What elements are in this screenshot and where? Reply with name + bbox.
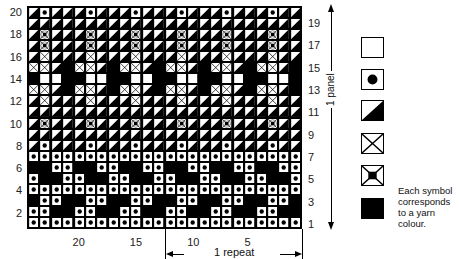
black-cell bbox=[165, 73, 176, 84]
dot-cell bbox=[51, 162, 62, 173]
diagonal-cell bbox=[142, 7, 153, 18]
dot-cell bbox=[278, 151, 289, 162]
diagonal-cell bbox=[233, 7, 244, 18]
dot-cell bbox=[130, 217, 141, 228]
dot-cell bbox=[51, 195, 62, 206]
diagonal-cell bbox=[28, 95, 39, 106]
row-label-7: 7 bbox=[308, 151, 314, 163]
black-cell bbox=[187, 206, 198, 217]
dot-cell bbox=[233, 151, 244, 162]
diagonal-cell bbox=[28, 106, 39, 117]
dot-cell bbox=[62, 162, 73, 173]
row-label-16: 16 bbox=[8, 51, 22, 63]
diagonal-cell bbox=[28, 18, 39, 29]
row-label-13: 13 bbox=[308, 84, 320, 96]
dot-cell bbox=[290, 173, 301, 184]
diagonal-cell bbox=[108, 18, 119, 29]
diagonal-cell bbox=[165, 7, 176, 18]
diagonal-cell bbox=[244, 95, 255, 106]
black-cell bbox=[176, 173, 187, 184]
diagonal-cell bbox=[165, 18, 176, 29]
dot-cell bbox=[165, 217, 176, 228]
diagonal-cell bbox=[119, 51, 130, 62]
black-cell bbox=[290, 84, 301, 95]
row-label-1: 1 bbox=[308, 218, 314, 230]
white-cell bbox=[130, 73, 141, 84]
dot-cell bbox=[221, 184, 232, 195]
dot-cell bbox=[108, 184, 119, 195]
black-cell bbox=[85, 173, 96, 184]
black-cell bbox=[244, 73, 255, 84]
dot-cell bbox=[85, 140, 96, 151]
black-cell bbox=[244, 195, 255, 206]
dot-cell bbox=[210, 184, 221, 195]
diagonal-cell bbox=[142, 29, 153, 40]
diagonal-cell bbox=[278, 18, 289, 29]
diagonal-cell bbox=[39, 18, 50, 29]
white-cell bbox=[278, 73, 289, 84]
dot-cell bbox=[119, 217, 130, 228]
diagonal-cell bbox=[28, 7, 39, 18]
dot-cell bbox=[233, 184, 244, 195]
dot-cell bbox=[210, 217, 221, 228]
diagonal-cell bbox=[96, 18, 107, 29]
cross-cell bbox=[221, 62, 232, 73]
dot-cell bbox=[256, 151, 267, 162]
diagonal-cell bbox=[233, 29, 244, 40]
dot-cell bbox=[85, 195, 96, 206]
cross-cell bbox=[39, 62, 50, 73]
diagonal-cell bbox=[130, 106, 141, 117]
black-cell bbox=[165, 195, 176, 206]
dot-cell bbox=[130, 151, 141, 162]
dot-cell bbox=[233, 162, 244, 173]
diagonal-cell bbox=[290, 51, 301, 62]
black-cell bbox=[153, 73, 164, 84]
black-cell bbox=[153, 195, 164, 206]
diagonal-cell bbox=[153, 95, 164, 106]
dot-cell bbox=[244, 162, 255, 173]
diagonal-cell bbox=[199, 29, 210, 40]
diagonal-cell bbox=[51, 106, 62, 117]
diagonal-cell bbox=[244, 18, 255, 29]
panel-arrow-down-icon bbox=[328, 222, 334, 230]
cross-cell bbox=[267, 95, 278, 106]
framed-cross-cell bbox=[176, 40, 187, 51]
diagonal-cell bbox=[85, 129, 96, 140]
diagonal-cell bbox=[278, 51, 289, 62]
row-label-6: 6 bbox=[8, 162, 22, 174]
knitting-chart-grid bbox=[27, 6, 302, 229]
dot-cell bbox=[187, 151, 198, 162]
black-cell bbox=[256, 195, 267, 206]
cross-cell bbox=[267, 51, 278, 62]
diagonal-cell bbox=[165, 118, 176, 129]
black-cell bbox=[290, 73, 301, 84]
cross-cell bbox=[176, 62, 187, 73]
diagonal-cell bbox=[96, 140, 107, 151]
diagonal-cell bbox=[199, 51, 210, 62]
dot-cell bbox=[244, 151, 255, 162]
dot-cell bbox=[278, 162, 289, 173]
dot-cell bbox=[165, 151, 176, 162]
diagonal-cell bbox=[130, 129, 141, 140]
dot-cell bbox=[267, 184, 278, 195]
diagonal-cell bbox=[119, 95, 130, 106]
dot-cell bbox=[96, 195, 107, 206]
dot-cell bbox=[108, 162, 119, 173]
diagonal-cell bbox=[153, 51, 164, 62]
row-label-2: 2 bbox=[8, 207, 22, 219]
dot-cell bbox=[267, 7, 278, 18]
panel-arrow-line bbox=[331, 10, 332, 225]
diagonal-cell bbox=[142, 84, 153, 95]
diagonal-cell bbox=[256, 40, 267, 51]
diagonal-cell bbox=[51, 51, 62, 62]
dot-cell bbox=[221, 217, 232, 228]
row-label-14: 14 bbox=[8, 73, 22, 85]
diagonal-cell bbox=[244, 106, 255, 117]
row-label-9: 9 bbox=[308, 129, 314, 141]
black-cell bbox=[165, 162, 176, 173]
diagonal-cell bbox=[119, 40, 130, 51]
diagonal-cell bbox=[187, 106, 198, 117]
black-cell bbox=[74, 195, 85, 206]
diagonal-cell bbox=[256, 29, 267, 40]
dot-cell bbox=[256, 173, 267, 184]
